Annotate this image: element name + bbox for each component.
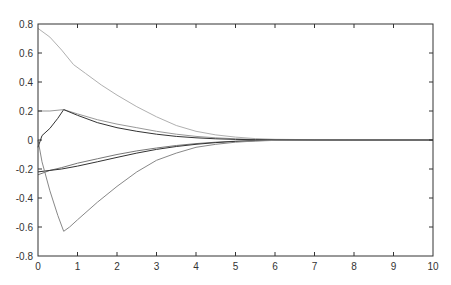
x-tick-label: 9 — [391, 261, 397, 272]
y-tick-label: 0.4 — [19, 77, 33, 88]
series-line-s6 — [38, 140, 433, 231]
y-tick-label: 0 — [27, 135, 33, 146]
y-tick-label: 0.6 — [19, 48, 33, 59]
y-tick-label: -0.6 — [16, 222, 34, 233]
series-line-s4 — [38, 140, 433, 175]
x-tick-label: 10 — [427, 261, 439, 272]
series-line-s2 — [38, 110, 433, 140]
x-axis: 012345678910 — [35, 24, 439, 272]
y-tick-label: -0.8 — [16, 251, 34, 262]
x-tick-label: 1 — [75, 261, 81, 272]
series-line-s5 — [38, 140, 433, 172]
y-tick-label: 0.8 — [19, 19, 33, 30]
line-chart: 012345678910 0.80.60.40.20-0.2-0.4-0.6-0… — [0, 0, 451, 285]
y-tick-label: 0.2 — [19, 106, 33, 117]
x-tick-label: 0 — [35, 261, 41, 272]
y-tick-label: -0.2 — [16, 164, 34, 175]
x-tick-label: 7 — [312, 261, 318, 272]
x-tick-label: 5 — [233, 261, 239, 272]
x-tick-label: 3 — [154, 261, 160, 272]
x-tick-label: 8 — [351, 261, 357, 272]
y-tick-label: -0.4 — [16, 193, 34, 204]
series-line-s1 — [38, 28, 433, 140]
series-layer — [38, 28, 433, 231]
x-tick-label: 4 — [193, 261, 199, 272]
x-tick-label: 2 — [114, 261, 120, 272]
x-tick-label: 6 — [272, 261, 278, 272]
